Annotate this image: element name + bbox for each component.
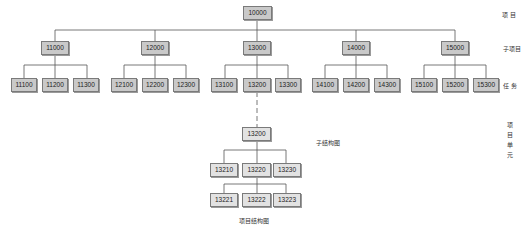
level-label-work-unit: 项 目 单 元 <box>505 120 515 160</box>
node-level1: 13000 <box>243 41 271 55</box>
work-unit-char: 单 <box>505 140 515 150</box>
node-level1: 14000 <box>342 41 370 55</box>
node-task: 12300 <box>173 78 199 92</box>
level-label-task: 任 务 <box>503 81 517 90</box>
work-unit-char: 元 <box>505 150 515 160</box>
work-unit-char: 目 <box>505 130 515 140</box>
node-task: 15200 <box>442 78 468 92</box>
node-task: 12200 <box>142 78 168 92</box>
node-task: 14300 <box>374 78 400 92</box>
level-label-subproject: 子项目 <box>503 44 521 53</box>
node-task: 12100 <box>111 78 137 92</box>
node-sub-level1: 13230 <box>273 163 301 177</box>
node-sub-root: 13200 <box>242 127 271 141</box>
node-task: 13100 <box>211 78 237 92</box>
node-level1: 12000 <box>141 41 169 55</box>
node-task: 15100 <box>411 78 437 92</box>
wbs-diagram: 10000 11000 12000 13000 14000 15000 1110… <box>0 0 527 236</box>
level-label-project: 项 目 <box>502 10 516 19</box>
node-sub-level1: 13220 <box>242 163 271 177</box>
node-level1: 11000 <box>41 41 69 55</box>
node-root: 10000 <box>243 6 272 20</box>
node-sub-level2: 13222 <box>242 193 271 207</box>
node-task: 11200 <box>42 78 68 92</box>
node-sub-level2: 13221 <box>210 193 238 207</box>
node-task: 13200 <box>243 78 271 92</box>
node-task: 14200 <box>343 78 369 92</box>
diagram-caption: 项目结构图 <box>239 216 269 225</box>
node-level1: 15000 <box>441 41 469 55</box>
node-task: 11100 <box>11 78 37 92</box>
node-task: 15300 <box>473 78 499 92</box>
work-unit-char: 项 <box>505 120 515 130</box>
node-task: 13300 <box>275 78 301 92</box>
node-sub-level2: 13223 <box>273 193 301 207</box>
substructure-label: 子结构图 <box>316 138 340 147</box>
node-task: 14100 <box>312 78 338 92</box>
node-task: 11300 <box>73 78 99 92</box>
node-sub-level1: 13210 <box>210 163 238 177</box>
